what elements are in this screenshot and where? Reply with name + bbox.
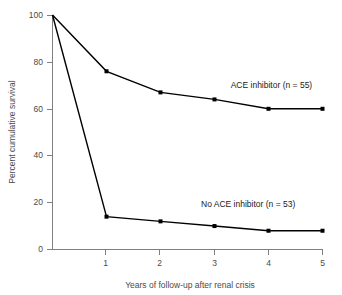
- x-tick-label: 1: [103, 258, 108, 268]
- x-tick-label: 4: [266, 258, 271, 268]
- x-tick-label: 5: [320, 258, 325, 268]
- x-tick-label: 3: [212, 258, 217, 268]
- chart-background: [0, 0, 342, 295]
- survival-chart: Percent cumulative survival Years of fol…: [0, 0, 342, 295]
- data-point-marker: [213, 224, 217, 228]
- y-tick-label: 40: [34, 150, 44, 160]
- y-axis-title: Percent cumulative survival: [7, 80, 17, 184]
- series-annotation-ace: ACE inhibitor (n = 55): [231, 80, 313, 90]
- data-point-marker: [267, 229, 271, 233]
- chart-canvas: Percent cumulative survival Years of fol…: [0, 0, 342, 295]
- data-point-marker: [105, 215, 109, 219]
- data-point-marker: [159, 219, 163, 223]
- y-tick-label: 20: [34, 197, 44, 207]
- series-annotation-no-ace: No ACE inhibitor (n = 53): [201, 199, 295, 209]
- y-tick-label: 60: [34, 104, 44, 114]
- y-tick-label: 80: [34, 57, 44, 67]
- data-point-marker: [159, 90, 163, 94]
- data-point-marker: [321, 229, 325, 233]
- y-tick-label: 0: [38, 244, 43, 254]
- data-point-marker: [105, 69, 109, 73]
- x-tick-label: 2: [157, 258, 162, 268]
- data-point-marker: [213, 97, 217, 101]
- x-axis-title: Years of follow-up after renal crisis: [125, 280, 255, 290]
- data-point-marker: [267, 107, 271, 111]
- data-point-marker: [321, 107, 325, 111]
- y-tick-label: 100: [29, 10, 43, 20]
